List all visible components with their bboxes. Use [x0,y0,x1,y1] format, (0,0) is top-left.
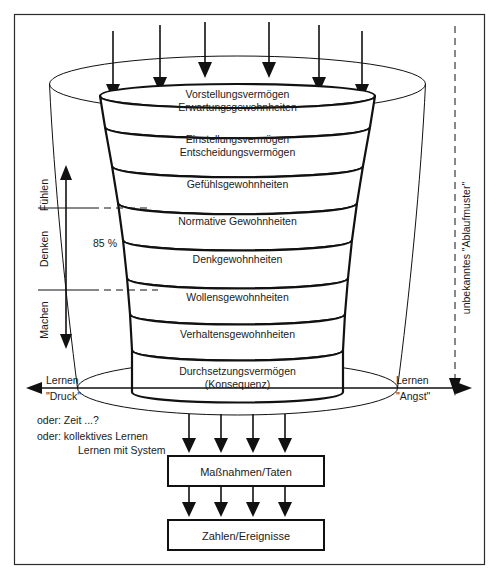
funnel-band-1-line-1: Vorstellungsvermögen [186,88,290,100]
funnel-to-measures-arrow-3 [246,414,260,453]
level-axis-arrowhead-down [60,334,72,349]
measures-to-numbers-arrow-3 [246,486,260,517]
right-arrow-label-line-2: "Angst" [396,390,431,402]
funnel-to-measures-arrows [182,414,292,453]
level-label-machen: Machen [38,301,50,339]
note-line-3: Lernen mit System [78,444,166,456]
funnel-band-7-line-1: Verhaltensgewohnheiten [180,328,295,340]
funnel-band-1-line-2: Erwartungsgewohnheiten [178,101,297,113]
note-line-1: oder: Zeit ...? [37,414,99,426]
funnel-band-5-line-1: Denkgewohnheiten [193,253,283,265]
percent-label: 85 % [93,237,117,249]
box-zahlen-ereignisse-label: Zahlen/Ereignisse [202,530,290,542]
left-arrow-label-line-1: Lernen [46,374,79,386]
note-line-2: oder: kollektives Lernen [37,430,148,442]
funnel-diagram: Vorstellungsvermögen Erwartungsgewohnhei… [0,0,499,578]
funnel-band-3-line-1: Gefühlsgewohnheiten [187,178,289,190]
learning-arrowhead-left [26,382,42,394]
funnel-band-2-line-2: Entscheidungsvermögen [180,146,296,158]
funnel-to-measures-arrow-4 [278,414,292,453]
top-arrow-3 [198,22,212,78]
level-axis-arrowhead-up [60,165,72,180]
funnel-to-measures-arrow-2 [214,414,228,453]
box-massnahmen-taten: Maßnahmen/Taten [168,456,324,486]
measures-to-numbers-arrows [182,486,292,517]
unknown-pattern-axis: unbekanntes "Ablaufmuster" [449,26,472,396]
funnel-band-4-line-1: Normative Gewohnheiten [178,215,297,227]
measures-to-numbers-arrow-4 [278,486,292,517]
diagram-root: Vorstellungsvermögen Erwartungsgewohnhei… [0,0,499,578]
level-label-denken: Denken [38,231,50,267]
funnel-band-stack: Vorstellungsvermögen Erwartungsgewohnhei… [100,84,375,403]
box-massnahmen-taten-label: Maßnahmen/Taten [200,466,292,478]
measures-to-numbers-arrow-1 [182,486,196,517]
level-label-fuehlen: Fühlen [38,179,50,211]
right-arrow-label-line-1: Lernen [396,374,429,386]
top-arrow-4 [262,22,276,78]
unknown-pattern-label: unbekanntes "Ablaufmuster" [460,182,472,315]
funnel-band-1: Vorstellungsvermögen Erwartungsgewohnhei… [100,84,375,138]
measures-to-numbers-arrow-2 [214,486,228,517]
box-zahlen-ereignisse: Zahlen/Ereignisse [168,520,324,550]
funnel-band-2-line-1: Einstellungsvermögen [186,133,289,145]
funnel-to-measures-arrow-1 [182,414,196,453]
funnel-band-2: Einstellungsvermögen Entscheidungsvermög… [105,127,370,177]
left-arrow-label-line-2: "Druck" [46,390,81,402]
funnel-band-8-line-1: Durchsetzungsvermögen [179,365,296,377]
funnel-band-6-line-1: Wollensgewohnheiten [186,291,289,303]
outer-funnel-right-wall [398,84,426,388]
